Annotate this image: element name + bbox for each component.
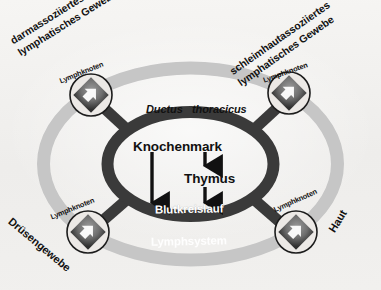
label-ductus: Ductus <box>146 103 183 115</box>
lymph-node-bottom-left <box>67 211 109 253</box>
label-thymus: Thymus <box>184 171 235 186</box>
lymph-node-bottom-right <box>275 211 317 253</box>
lymphatic-system-diagram: darmassoziiertes lymphatisches Gewebe sc… <box>0 0 381 290</box>
label-thoracicus: thoracicus <box>192 103 247 115</box>
bloodstream-ring <box>108 112 274 216</box>
label-lymph-system: Lymphsystem <box>151 234 227 248</box>
lymph-node-top-left <box>70 74 112 116</box>
label-bloodstream: Blutkreislauf <box>155 202 224 216</box>
label-bone-marrow: Knochenmark <box>133 139 222 154</box>
